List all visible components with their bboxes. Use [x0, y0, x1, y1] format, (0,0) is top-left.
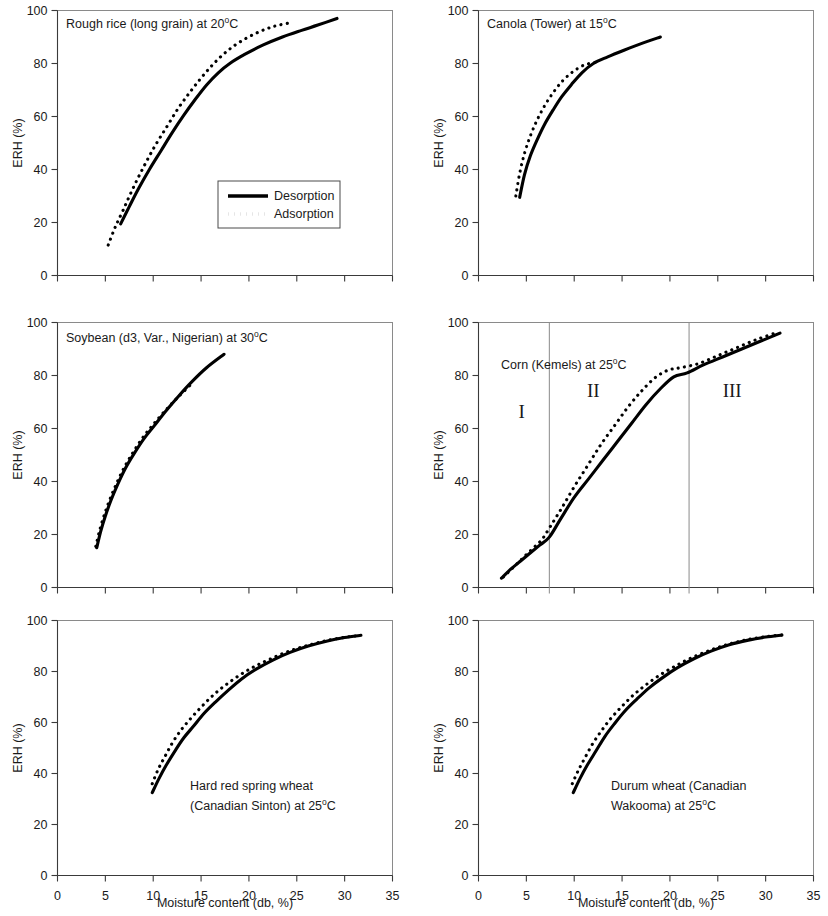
y-tick-label: 100: [448, 316, 469, 330]
y-tick-label: 40: [34, 767, 48, 781]
y-tick-labels-hrs-wheat: 020406080100: [27, 614, 48, 883]
y-tick-label: 20: [455, 216, 469, 230]
y-axis-title-durum: ERH (%): [432, 723, 446, 772]
curve-adsorption: [572, 635, 782, 784]
y-axis-title-hrs-wheat: ERH (%): [11, 723, 25, 772]
x-tick-label: 5: [102, 889, 109, 903]
y-tick-labels-durum: 020406080100: [448, 614, 469, 883]
panel-soybean: 020406080100 Soybean (d3, Var., Nigerian…: [0, 312, 400, 607]
curve-desorption: [152, 635, 361, 792]
chart-durum: 020406080100 05101520253035 Durum wheat …: [421, 610, 828, 916]
panel-title-soybean: Soybean (d3, Var., Nigerian) at 30oC: [66, 329, 268, 345]
y-ticks-soybean: [52, 323, 58, 588]
curves-durum: [572, 635, 782, 793]
legend-rough-rice: Desorption Adsorption: [218, 181, 340, 228]
region-label-ii: II: [587, 380, 600, 401]
legend-label-desorption: Desorption: [274, 189, 334, 203]
legend-label-adsorption: Adsorption: [274, 207, 334, 221]
y-tick-label: 60: [34, 422, 48, 436]
y-tick-label: 60: [455, 716, 469, 730]
y-ticks-rough-rice: [52, 11, 58, 276]
y-tick-label: 80: [34, 369, 48, 383]
panel-title-durum-line2: Wakooma) at 25oC: [611, 797, 716, 813]
y-tick-label: 20: [34, 528, 48, 542]
y-tick-label: 0: [462, 581, 469, 595]
curve-adsorption: [96, 385, 191, 547]
y-tick-label: 100: [27, 4, 48, 18]
y-tick-label: 20: [34, 818, 48, 832]
y-tick-label: 100: [448, 4, 469, 18]
y-tick-label: 20: [34, 216, 48, 230]
curves-hrs-wheat: [152, 635, 361, 792]
y-ticks-hrs-wheat: [52, 621, 58, 876]
y-tick-label: 100: [448, 614, 469, 628]
y-tick-labels-corn: 020406080100: [448, 316, 469, 595]
y-tick-label: 60: [455, 422, 469, 436]
panel-title-rough-rice: Rough rice (long grain) at 20oC: [66, 15, 238, 31]
axes-rough-rice: 020406080100: [27, 4, 393, 283]
y-tick-label: 40: [34, 475, 48, 489]
axes-hrs-wheat: 020406080100 05101520253035: [27, 614, 400, 903]
x-axis-title-hrs-wheat: Moisture content (db, %): [157, 896, 293, 910]
y-tick-label: 80: [455, 369, 469, 383]
curves-canola: [516, 37, 661, 197]
curve-desorption: [573, 635, 782, 793]
x-tick-label: 35: [386, 889, 400, 903]
panel-title-hrs-wheat-line1: Hard red spring wheat: [190, 779, 314, 793]
x-tick-label: 35: [807, 889, 821, 903]
x-tick-label: 5: [523, 889, 530, 903]
y-tick-label: 20: [455, 528, 469, 542]
curves-soybean: [96, 354, 224, 547]
x-tick-label: 0: [54, 889, 61, 903]
x-ticks-durum: [479, 876, 814, 882]
curve-desorption: [520, 37, 661, 197]
y-tick-label: 80: [455, 57, 469, 71]
y-ticks-durum: [473, 621, 479, 876]
panel-hard-red-spring-wheat: 020406080100 05101520253035 Hard red spr…: [0, 610, 400, 916]
y-tick-labels-soybean: 020406080100: [27, 316, 48, 595]
y-tick-label: 60: [34, 110, 48, 124]
sorption-isotherm-figure: 020406080100 Rough rice (long grain) at …: [0, 0, 828, 916]
x-ticks-soybean: [58, 588, 393, 594]
curve-adsorption: [516, 62, 596, 196]
y-tick-label: 60: [34, 716, 48, 730]
x-ticks-corn: [479, 588, 814, 594]
y-tick-label: 100: [27, 316, 48, 330]
panel-title-durum-line1: Durum wheat (Canadian: [611, 779, 747, 793]
y-tick-label: 40: [34, 163, 48, 177]
y-tick-label: 100: [27, 614, 48, 628]
x-tick-label: 30: [759, 889, 773, 903]
y-axis-title-canola: ERH (%): [432, 118, 446, 167]
y-tick-label: 0: [41, 269, 48, 283]
x-ticks-hrs-wheat: [58, 876, 393, 882]
y-tick-label: 60: [455, 110, 469, 124]
y-ticks-corn: [473, 323, 479, 588]
x-ticks-canola: [479, 276, 814, 282]
y-tick-label: 0: [41, 869, 48, 883]
panel-canola: 020406080100 Canola (Tower) at 15oC ERH …: [421, 0, 828, 295]
axes-durum: 020406080100 05101520253035: [448, 614, 821, 903]
x-ticks-rough-rice: [58, 276, 393, 282]
y-tick-label: 0: [462, 869, 469, 883]
chart-rough-rice: 020406080100 Rough rice (long grain) at …: [0, 0, 400, 295]
x-axis-title-durum: Moisture content (db, %): [578, 896, 714, 910]
y-tick-label: 40: [455, 475, 469, 489]
y-tick-label: 40: [455, 767, 469, 781]
y-tick-label: 0: [41, 581, 48, 595]
y-tick-label: 20: [455, 818, 469, 832]
y-tick-label: 80: [34, 57, 48, 71]
y-ticks-canola: [473, 11, 479, 276]
y-axis-title-rough-rice: ERH (%): [11, 118, 25, 167]
region-label-iii: III: [723, 380, 742, 401]
panel-rough-rice: 020406080100 Rough rice (long grain) at …: [0, 0, 400, 295]
y-tick-labels-canola: 020406080100: [448, 4, 469, 283]
chart-corn: 020406080100 Corn (Kemels) at 25oC IIIII…: [421, 312, 828, 607]
chart-canola: 020406080100 Canola (Tower) at 15oC ERH …: [421, 0, 828, 295]
x-tick-label: 0: [475, 889, 482, 903]
panel-title-corn: Corn (Kemels) at 25oC: [501, 356, 627, 372]
y-tick-label: 80: [34, 665, 48, 679]
chart-soybean: 020406080100 Soybean (d3, Var., Nigerian…: [0, 312, 400, 607]
region-label-i: I: [518, 401, 524, 422]
axes-soybean: 020406080100: [27, 316, 393, 595]
curve-desorption: [97, 354, 224, 547]
